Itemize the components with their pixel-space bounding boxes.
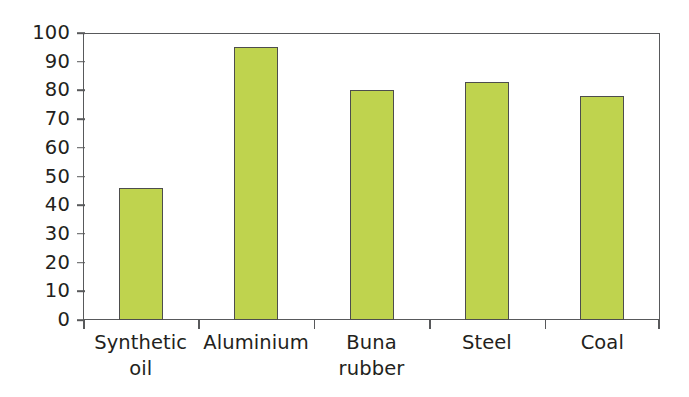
x-axis-category-label-line: Buna: [346, 331, 396, 354]
x-axis-category-label-line: Coal: [581, 331, 624, 354]
x-axis-tick-mark: [429, 320, 431, 329]
bar: [234, 47, 278, 320]
x-axis-category-label-line: oil: [83, 356, 198, 382]
y-axis-tick-label: 80: [45, 81, 70, 101]
bars-layer: [83, 33, 660, 320]
x-axis-tick-marks: [83, 320, 660, 330]
bar: [350, 90, 394, 320]
x-axis-category-label: Syntheticoil: [83, 330, 198, 382]
x-axis-tick-mark: [314, 320, 316, 329]
y-axis-tick-label: 10: [45, 282, 70, 302]
y-axis-tick-label: 40: [45, 195, 70, 215]
y-axis-tick-label: 60: [45, 138, 70, 158]
x-axis-category-label: Steel: [429, 330, 544, 356]
x-axis-tick-mark: [545, 320, 547, 329]
bar-chart: 0102030405060708090100 SyntheticoilAlumi…: [0, 0, 689, 397]
x-axis-category-label-line: Aluminium: [203, 331, 309, 354]
x-axis-category-labels: SyntheticoilAluminiumBunarubberSteelCoal: [83, 330, 660, 392]
y-axis-tick-label: 100: [32, 23, 70, 43]
bar: [119, 188, 163, 320]
y-axis-tick-label: 70: [45, 109, 70, 129]
x-axis-category-label: Coal: [545, 330, 660, 356]
y-axis-tick-label: 0: [57, 310, 70, 330]
y-axis-tick-label: 30: [45, 224, 70, 244]
y-axis-tick-label: 20: [45, 253, 70, 273]
x-axis-tick-mark: [83, 320, 85, 329]
x-axis-category-label-line: rubber: [314, 356, 429, 382]
x-axis-category-label-line: Synthetic: [94, 331, 187, 354]
bar: [465, 82, 509, 320]
x-axis-category-label: Bunarubber: [314, 330, 429, 382]
bar: [580, 96, 624, 320]
x-axis-tick-mark: [198, 320, 200, 329]
y-axis-tick-label: 90: [45, 52, 70, 72]
x-axis-tick-mark: [658, 320, 660, 329]
y-axis-tick-label: 50: [45, 167, 70, 187]
y-axis-tick-labels: 0102030405060708090100: [0, 33, 70, 320]
x-axis-category-label: Aluminium: [198, 330, 313, 356]
x-axis-category-label-line: Steel: [462, 331, 512, 354]
